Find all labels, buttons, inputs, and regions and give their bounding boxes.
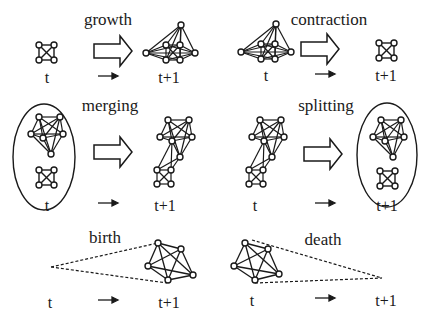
birth-to-label: t+1 xyxy=(158,295,179,311)
birth-time-arrow xyxy=(98,297,118,303)
merging-title: merging xyxy=(82,97,138,114)
growth-from-label: t xyxy=(45,70,49,86)
splitting-graph-t xyxy=(246,117,287,187)
contraction-graph-t1 xyxy=(376,40,397,61)
splitting-panel-graphics xyxy=(246,103,417,207)
splitting-title: splitting xyxy=(298,97,354,114)
growth-time-arrow xyxy=(98,73,118,79)
merging-graph-t-small xyxy=(36,167,57,188)
splitting-to-label: t+1 xyxy=(376,198,397,214)
birth-title: birth xyxy=(89,229,121,246)
splitting-group-ellipse xyxy=(357,103,417,207)
contraction-graph-t xyxy=(238,21,294,62)
splitting-time-arrow xyxy=(315,200,335,206)
merging-graph-t1 xyxy=(154,117,195,187)
contraction-time-arrow xyxy=(315,71,335,77)
diagram-graphics xyxy=(0,0,434,319)
contraction-to-label: t+1 xyxy=(375,68,396,84)
merging-from-label: t xyxy=(45,198,49,214)
growth-block-arrow xyxy=(94,36,132,66)
merging-panel-graphics xyxy=(13,104,195,210)
death-title: death xyxy=(305,231,342,248)
merging-graph-t-large xyxy=(28,114,66,157)
birth-graph-t1 xyxy=(145,240,196,283)
merging-time-arrow xyxy=(98,200,118,206)
growth-graph-t xyxy=(36,42,57,63)
contraction-block-arrow xyxy=(301,34,339,64)
community-evolution-diagram: growth t t+1 contraction t t+1 merging t… xyxy=(0,0,434,319)
contraction-from-label: t xyxy=(264,68,268,84)
death-time-arrow xyxy=(315,295,335,301)
splitting-graph-t1-small xyxy=(377,168,398,189)
birth-from-label: t xyxy=(48,295,52,311)
splitting-block-arrow xyxy=(304,139,342,169)
death-graph-t xyxy=(231,240,282,283)
contraction-panel-graphics xyxy=(238,21,397,77)
merging-block-arrow xyxy=(94,137,132,167)
death-from-label: t xyxy=(250,293,254,309)
splitting-from-label: t xyxy=(253,198,257,214)
merging-to-label: t+1 xyxy=(154,198,175,214)
growth-to-label: t+1 xyxy=(158,70,179,86)
growth-title: growth xyxy=(84,11,132,28)
growth-graph-t1 xyxy=(143,22,198,63)
contraction-title: contraction xyxy=(291,11,367,28)
death-dashed-line-bottom xyxy=(255,278,382,283)
birth-dashed-line-bottom xyxy=(51,267,167,283)
death-to-label: t+1 xyxy=(375,293,396,309)
splitting-graph-t1-large xyxy=(370,117,407,160)
